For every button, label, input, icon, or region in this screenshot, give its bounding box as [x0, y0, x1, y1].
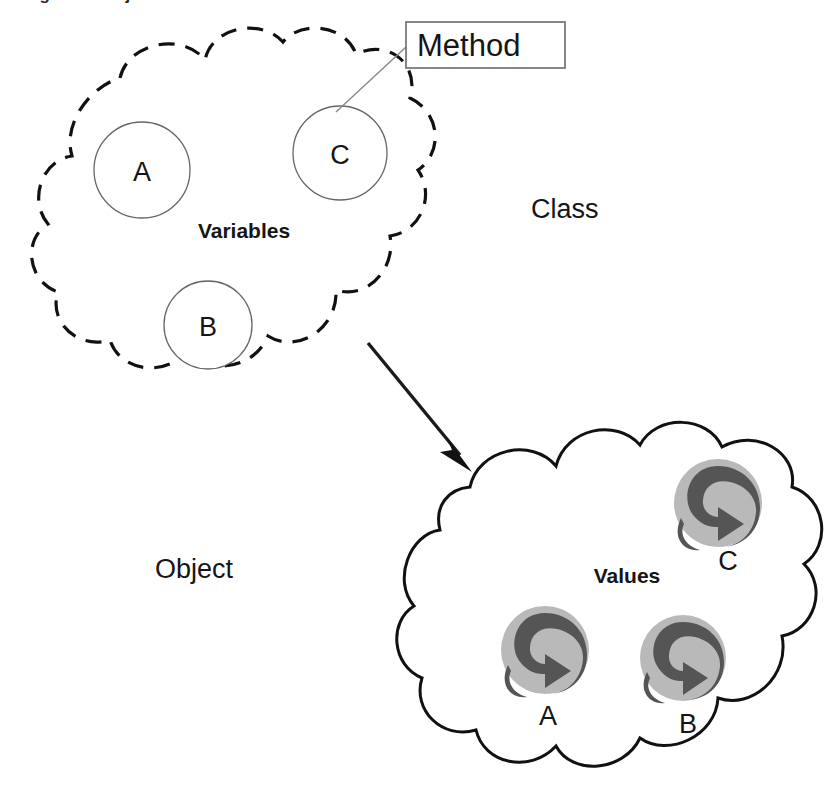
class-object-diagram: A C B Variables Method Class Values C [0, 0, 831, 791]
instantiation-arrow-head [440, 438, 472, 472]
object-cloud-solid-outline [397, 422, 822, 766]
class-label: Class [531, 194, 599, 224]
value-label-b: B [679, 709, 697, 739]
values-label: Values [594, 564, 661, 587]
object-label: Object [155, 554, 234, 584]
variable-circle-b-label: B [199, 312, 217, 342]
variables-label: Variables [198, 219, 290, 242]
value-label-a: A [539, 701, 557, 731]
method-callout-label: Method [417, 28, 520, 63]
variable-circle-a-label: A [133, 157, 151, 187]
diagram-canvas: Figure 1. Objects and their Values A C B… [0, 0, 831, 791]
instantiation-arrow-shaft [368, 343, 460, 455]
value-label-c: C [718, 546, 738, 576]
variable-circle-c-label: C [330, 140, 350, 170]
